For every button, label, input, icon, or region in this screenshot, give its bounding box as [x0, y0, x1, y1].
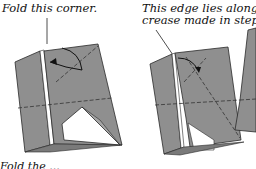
leader-line-right — [156, 30, 173, 55]
fold-diagram — [0, 0, 256, 169]
figure-after-fold — [150, 28, 256, 155]
figure-before-fold — [15, 18, 122, 152]
